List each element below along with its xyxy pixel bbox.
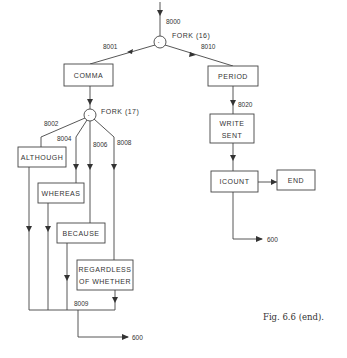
box-regardless-label-2: OF WHETHER [79,278,131,285]
arrow-head-icon [230,100,236,106]
arrow-head-icon [64,275,70,281]
edge-8010 [165,45,233,66]
flowchart: 8000 · FORK (16) 8001 8010 COMMA · FORK … [0,0,347,358]
arrow-head-icon [73,164,79,170]
box-whereas-label: WHEREAS [42,190,81,197]
box-regardless-label-1: REGARDLESS [79,266,132,273]
arrow-head-icon [87,99,93,105]
label-8010: 8010 [201,43,216,50]
box-comma-label: COMMA [74,72,103,79]
label-8008: 8008 [117,139,132,146]
fork17-label: FORK (17) [101,108,139,116]
box-write-label-1: WRITE [219,120,244,127]
arrow-head-icon [157,10,163,16]
fork16-symbol: · [158,39,161,46]
box-icount-label: ICOUNT [220,178,250,185]
fork16-label: FORK (16) [172,32,210,40]
box-although-label: ALTHOUGH [21,154,63,161]
arrow-head-icon [26,226,32,232]
label-8009: 8009 [74,300,89,307]
arrow-head-icon [271,179,277,185]
box-because-label: BECAUSE [63,230,100,237]
exit-right-label: 600 [267,236,278,243]
arrow-head-icon [87,164,93,170]
edge-exit-left [78,310,128,337]
label-8020: 8020 [238,101,253,108]
arrow-head-icon [112,297,118,303]
arrow-head-icon [256,236,263,242]
arrow-head-icon [122,334,129,340]
arrow-head-icon [189,52,196,57]
label-8001: 8001 [103,43,118,50]
exit-left-label: 600 [132,334,143,341]
arrow-head-icon [111,164,117,170]
arrow-head-icon [230,155,236,161]
label-8004: 8004 [57,135,72,142]
edge-8004 [76,120,87,183]
edge-8001 [90,45,155,64]
label-8000: 8000 [166,18,181,25]
box-period-label: PERIOD [218,73,248,80]
figure-caption: Fig. 6.6 (end). [263,312,324,322]
edge-exit-right [233,192,262,239]
box-end-label: END [288,177,304,184]
arrow-head-icon [45,226,51,232]
box-regardless [77,260,133,290]
label-8002: 8002 [44,120,59,127]
label-8006: 8006 [93,141,108,148]
box-write-label-2: SENT [222,132,243,139]
fork17-symbol: · [88,112,91,119]
